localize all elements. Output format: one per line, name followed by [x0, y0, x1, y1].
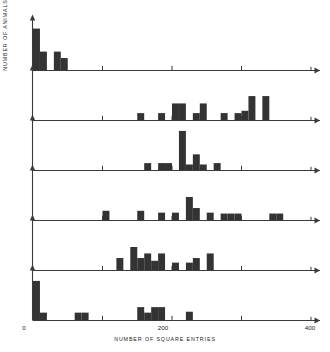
bar	[137, 113, 144, 120]
bar	[172, 213, 179, 220]
y-axis-label: NUMBER OF ANIMALS	[2, 0, 8, 120]
bar	[269, 214, 276, 220]
bar	[179, 103, 186, 120]
y-axis-arrowhead	[30, 115, 35, 121]
bar	[235, 214, 242, 220]
bar	[172, 103, 179, 120]
bar	[207, 213, 214, 220]
bar	[116, 258, 123, 270]
bar	[172, 263, 179, 270]
panel-group-3	[30, 115, 320, 174]
panel-group-2	[30, 65, 320, 124]
bar	[214, 163, 221, 170]
bar	[248, 96, 255, 120]
bar	[221, 214, 228, 220]
bar	[33, 29, 40, 70]
bar	[158, 163, 165, 170]
bar	[137, 307, 144, 320]
y-axis-arrowhead	[30, 15, 35, 21]
bar	[200, 164, 207, 170]
bar	[61, 58, 68, 70]
bar	[144, 163, 151, 170]
bar	[82, 313, 89, 320]
panel-group-1	[30, 15, 320, 74]
bar	[144, 313, 151, 320]
bar	[186, 164, 193, 170]
bar	[158, 213, 165, 220]
bar	[151, 261, 158, 270]
histogram-panels-svg	[0, 0, 330, 352]
bar	[262, 96, 269, 120]
x-tick-label-200: 200	[150, 324, 176, 331]
bar	[228, 214, 235, 220]
bar	[186, 197, 193, 220]
x-axis-label: NUMBER OF SQUARE ENTRIES	[0, 336, 330, 342]
bar	[40, 313, 47, 320]
bar	[186, 263, 193, 270]
bar	[54, 52, 61, 70]
x-axis-arrowhead	[315, 168, 321, 174]
x-axis-arrowhead	[315, 268, 321, 274]
bar	[193, 258, 200, 270]
x-axis-arrowhead	[315, 118, 321, 124]
bar	[137, 258, 144, 270]
bar	[103, 211, 110, 220]
x-tick-label-400: 400	[297, 324, 323, 331]
bar	[193, 154, 200, 170]
x-axis-arrowhead	[315, 68, 321, 74]
bar	[193, 208, 200, 220]
bar	[158, 253, 165, 270]
y-axis-arrowhead	[30, 165, 35, 171]
bar	[158, 113, 165, 120]
panel-group-6	[30, 265, 320, 324]
bar	[276, 214, 283, 220]
bar	[75, 313, 82, 320]
bar	[242, 111, 249, 120]
bar	[193, 113, 200, 120]
bar	[235, 113, 242, 120]
y-axis-arrowhead	[30, 265, 35, 271]
x-axis-arrowhead	[315, 318, 321, 324]
bar	[137, 211, 144, 220]
bar	[179, 131, 186, 170]
bar	[158, 307, 165, 320]
bar	[151, 307, 158, 320]
bar	[186, 312, 193, 320]
bar	[165, 163, 172, 170]
bar	[207, 253, 214, 270]
x-tick-label-0: 0	[14, 324, 34, 331]
bar	[221, 113, 228, 120]
x-axis-arrowhead	[315, 218, 321, 224]
histogram-figure: NUMBER OF ANIMALS NUMBER OF SQUARE ENTRI…	[0, 0, 330, 352]
bar	[130, 247, 137, 270]
panel-group-5	[30, 215, 320, 274]
panel-group-4	[30, 165, 320, 224]
bar	[144, 253, 151, 270]
bar	[200, 103, 207, 120]
y-axis-arrowhead	[30, 215, 35, 221]
bar	[33, 281, 40, 320]
bar	[40, 52, 47, 70]
